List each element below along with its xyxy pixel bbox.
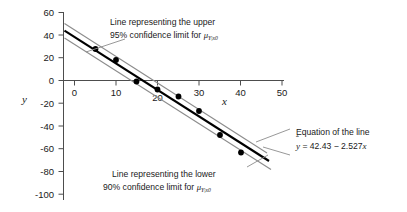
data-point xyxy=(238,150,244,156)
equation-x-variable: x xyxy=(362,141,367,151)
upper-annotation-prefix: 95% confidence limit for xyxy=(110,30,204,40)
x-tick-label-1: 10 xyxy=(111,87,122,98)
equation-leader-line-lower xyxy=(263,147,290,155)
y-tick-label-5: -40 xyxy=(40,121,54,132)
lower-limit-annotation: Line representing the lower 90% confiden… xyxy=(103,169,216,193)
x-tick-label-5: 50 xyxy=(277,87,288,98)
data-point xyxy=(217,132,223,138)
y-tick-label-1: 40 xyxy=(43,30,54,41)
y-tick-label-8: -100 xyxy=(35,189,54,200)
data-point xyxy=(134,79,140,85)
data-point xyxy=(176,94,182,100)
y-tick-label-7: -80 xyxy=(40,166,54,177)
y-axis-tick-labels: 60 40 20 0 -20 -40 -60 -80 -100 xyxy=(35,7,54,200)
lower-annotation-line2: 90% confidence limit for μY|x0 xyxy=(103,182,211,193)
x-axis-ticks xyxy=(75,81,283,86)
equation-leader-line-upper xyxy=(256,129,290,142)
equation-rest: = 42.43 − 2.527 xyxy=(300,141,363,151)
data-point xyxy=(196,108,202,114)
y-axis-ticks xyxy=(59,13,64,195)
lower-annotation-line1: Line representing the lower xyxy=(112,169,216,179)
data-point xyxy=(113,57,119,63)
x-tick-label-4: 40 xyxy=(235,87,246,98)
y-tick-label-0: 60 xyxy=(43,7,54,18)
data-point xyxy=(155,87,161,93)
y-tick-label-2: 20 xyxy=(43,52,54,63)
scatter-plot-figure: 60 40 20 0 -20 -40 -60 -80 -100 0 10 20 … xyxy=(0,0,407,212)
upper-annotation-line1: Line representing the upper xyxy=(110,17,215,27)
lower-annotation-prefix: 90% confidence limit for xyxy=(103,182,197,192)
upper-annotation-line2: 95% confidence limit for μY|x0 xyxy=(110,30,218,41)
x-tick-label-3: 30 xyxy=(194,87,205,98)
y-tick-label-3: 0 xyxy=(49,75,54,86)
chart-canvas: 60 40 20 0 -20 -40 -60 -80 -100 0 10 20 … xyxy=(0,0,407,212)
x-axis-label: x xyxy=(221,95,227,107)
lower-annotation-subscript-zero: 0 xyxy=(208,187,211,193)
upper-annotation-subscript-zero: 0 xyxy=(215,35,218,41)
y-tick-label-6: -60 xyxy=(40,143,54,154)
equation-annotation: Equation of the line y = 42.43 − 2.527x … xyxy=(295,127,370,151)
equation-annotation-formula: y = 42.43 − 2.527x xyxy=(295,141,367,151)
y-tick-label-4: -20 xyxy=(40,98,54,109)
x-tick-label-0: 0 xyxy=(72,87,77,98)
equation-hat-accent: ˆ xyxy=(296,134,299,144)
y-axis-label: y xyxy=(21,93,27,105)
equation-annotation-line1: Equation of the line xyxy=(296,127,370,137)
upper-limit-annotation: Line representing the upper 95% confiden… xyxy=(110,17,218,41)
